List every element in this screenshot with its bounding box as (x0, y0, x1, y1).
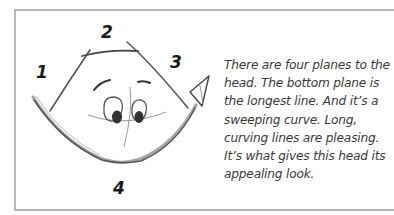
plane-label-1: 1 (36, 64, 48, 81)
plane-2-line (82, 51, 138, 56)
caption-line: head. The bottom plane is (224, 74, 384, 92)
caption-line: appealing look. (224, 165, 384, 183)
center-guideline (124, 87, 131, 147)
left-eyebrow (94, 80, 110, 90)
left-pupil (112, 111, 122, 124)
caption-line: the longest line. And it’s a (224, 92, 384, 110)
caption-line: curving lines are pleasing. (224, 129, 384, 147)
ear-icon (190, 76, 209, 106)
plane-4-curve-inner (34, 100, 195, 163)
caption-line: sweeping curve. Long, (224, 111, 384, 129)
right-eyebrow (138, 81, 150, 83)
head-planes-illustration: 1 2 3 4 (0, 0, 220, 215)
eye-guideline (88, 112, 166, 121)
right-pupil (135, 111, 144, 123)
plane-label-3: 3 (170, 54, 182, 71)
caption-text: There are four planes to the head. The b… (224, 56, 384, 183)
plane-label-4: 4 (113, 180, 125, 197)
caption-line: It’s what gives this head its (224, 147, 384, 165)
caption-line: There are four planes to the (224, 56, 384, 74)
plane-1-line (50, 50, 90, 111)
plane-label-2: 2 (101, 24, 113, 41)
